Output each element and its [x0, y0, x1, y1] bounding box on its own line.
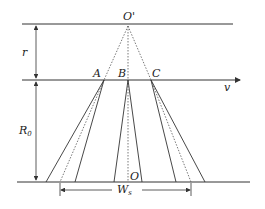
beam-b-right	[128, 80, 142, 182]
label-c: C	[152, 67, 161, 80]
label-o: O	[130, 170, 139, 183]
label-r0: R0	[18, 124, 32, 138]
label-b: B	[117, 67, 126, 80]
beam-a-dotted	[60, 80, 104, 182]
beam-c-dotted	[151, 80, 191, 182]
label-v: v	[224, 81, 231, 94]
beam-a-inner	[75, 80, 104, 182]
label-ws: Ws	[117, 183, 132, 197]
beam-c-inner	[151, 80, 176, 182]
beam-b-left	[114, 80, 128, 182]
beam-a-outer	[46, 80, 104, 182]
diagram-canvas: O' A B C v r R0 O Ws	[0, 0, 265, 209]
geometry-diagram: O' A B C v r R0 O Ws	[0, 0, 265, 209]
label-o-prime: O'	[123, 10, 135, 23]
dotted-oc	[128, 26, 151, 80]
beam-c-outer	[151, 80, 205, 182]
label-a: A	[92, 67, 101, 80]
label-r: r	[22, 46, 28, 59]
